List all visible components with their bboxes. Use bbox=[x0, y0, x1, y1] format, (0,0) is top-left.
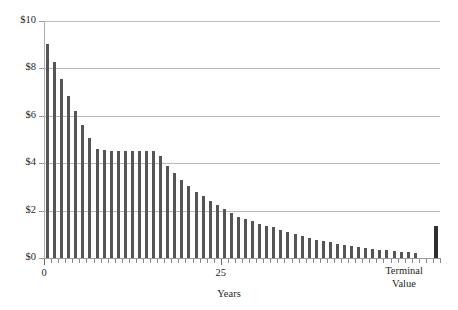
y-axis-tick-label: $8 bbox=[0, 61, 36, 72]
bar bbox=[286, 232, 289, 258]
x-axis-tick bbox=[270, 259, 271, 263]
x-axis-tick bbox=[129, 259, 130, 263]
x-axis-tick bbox=[200, 259, 201, 263]
x-axis-tick bbox=[108, 259, 109, 263]
x-axis-tick bbox=[433, 259, 434, 263]
x-axis-tick bbox=[58, 259, 59, 263]
bar bbox=[343, 245, 346, 258]
x-axis-tick bbox=[185, 259, 186, 263]
x-axis-tick bbox=[426, 259, 427, 263]
x-axis-tick bbox=[143, 259, 144, 263]
bar bbox=[131, 151, 134, 258]
x-axis-tick bbox=[320, 259, 321, 263]
bar bbox=[209, 201, 212, 258]
bar bbox=[110, 151, 113, 258]
x-axis-tick bbox=[242, 259, 243, 263]
y-axis-tick-label: $4 bbox=[0, 156, 36, 167]
x-axis-tick bbox=[136, 259, 137, 263]
x-axis-tick bbox=[44, 259, 45, 265]
x-axis-tick bbox=[86, 259, 87, 263]
x-axis-tick bbox=[405, 259, 406, 263]
bar bbox=[357, 247, 360, 258]
x-axis-tick bbox=[101, 259, 102, 263]
terminal-value-annotation: Terminal Value bbox=[371, 265, 437, 290]
bar bbox=[60, 79, 63, 258]
bar bbox=[265, 226, 268, 258]
dcf-bar-chart: $10$8$6$4$2$0 025 Years Terminal Value bbox=[0, 0, 458, 310]
x-axis-tick bbox=[150, 259, 151, 263]
bar bbox=[96, 149, 99, 258]
x-axis-tick bbox=[249, 259, 250, 263]
x-axis-tick bbox=[65, 259, 66, 263]
bar bbox=[138, 151, 141, 258]
bar bbox=[195, 192, 198, 258]
bar bbox=[166, 166, 169, 258]
x-axis-tick bbox=[171, 259, 172, 263]
x-axis-tick bbox=[277, 259, 278, 263]
bar bbox=[393, 251, 396, 258]
y-axis-tick-label: $2 bbox=[0, 204, 36, 215]
bar bbox=[378, 250, 381, 258]
terminal-value-bar bbox=[434, 226, 438, 258]
y-axis-tick-label: $0 bbox=[0, 251, 36, 262]
bar bbox=[152, 151, 155, 258]
bar bbox=[407, 252, 410, 258]
bar bbox=[180, 180, 183, 258]
x-axis-tick bbox=[334, 259, 335, 263]
x-axis-tick bbox=[362, 259, 363, 263]
bar bbox=[237, 217, 240, 258]
x-axis-tick-label: 25 bbox=[201, 267, 241, 278]
x-axis-tick bbox=[355, 259, 356, 263]
bar bbox=[187, 186, 190, 258]
x-axis-tick-label: 0 bbox=[24, 267, 64, 278]
x-axis-tick bbox=[419, 259, 420, 263]
x-axis-tick bbox=[383, 259, 384, 263]
bar bbox=[385, 250, 388, 258]
x-axis-tick bbox=[369, 259, 370, 263]
bar bbox=[53, 62, 56, 258]
bar bbox=[81, 125, 84, 258]
x-axis-tick bbox=[299, 259, 300, 263]
x-axis-tick bbox=[348, 259, 349, 263]
bar bbox=[322, 241, 325, 258]
bar bbox=[364, 248, 367, 258]
bar bbox=[103, 150, 106, 258]
x-axis-tick bbox=[115, 259, 116, 263]
x-axis-tick bbox=[306, 259, 307, 263]
bar bbox=[414, 253, 417, 258]
terminal-value-line-2: Value bbox=[371, 278, 437, 291]
bar bbox=[272, 227, 275, 258]
bar bbox=[202, 196, 205, 258]
bar bbox=[124, 151, 127, 258]
bar bbox=[159, 156, 162, 258]
x-axis-tick bbox=[398, 259, 399, 263]
x-axis-tick bbox=[122, 259, 123, 263]
bar bbox=[88, 138, 91, 258]
bar bbox=[350, 246, 353, 258]
bar bbox=[223, 209, 226, 258]
x-axis-tick bbox=[376, 259, 377, 263]
x-axis-tick bbox=[164, 259, 165, 263]
x-axis-tick bbox=[235, 259, 236, 263]
bar bbox=[258, 224, 261, 258]
bar bbox=[251, 221, 254, 258]
bar bbox=[329, 242, 332, 258]
bar bbox=[173, 173, 176, 258]
plot-area bbox=[44, 21, 440, 258]
x-axis-tick bbox=[193, 259, 194, 263]
x-axis-tick bbox=[327, 259, 328, 263]
x-axis-tick bbox=[292, 259, 293, 263]
bar bbox=[46, 44, 49, 258]
x-axis-tick bbox=[228, 259, 229, 263]
x-axis-tick bbox=[313, 259, 314, 263]
x-axis-tick bbox=[79, 259, 80, 263]
y-axis-tick-label: $10 bbox=[0, 14, 36, 25]
x-axis-tick bbox=[341, 259, 342, 263]
x-axis-tick bbox=[207, 259, 208, 263]
x-axis-tick bbox=[221, 259, 222, 265]
x-axis-tick bbox=[412, 259, 413, 263]
bar bbox=[230, 213, 233, 258]
bar bbox=[336, 244, 339, 258]
x-axis-tick bbox=[94, 259, 95, 263]
bar bbox=[308, 238, 311, 258]
